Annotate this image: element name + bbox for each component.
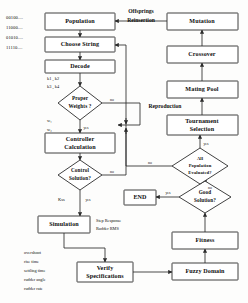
annotation-sim-output-1: Step Response (96, 218, 121, 223)
annotation-binary-string-2: 11000.... (6, 25, 23, 30)
node-fuzzy-domain-label: Fuzzy Domain (185, 268, 225, 274)
node-all-population-evaluated-label-1: All (197, 156, 204, 161)
edge-label-no-control-solution: no (110, 170, 114, 174)
node-control-solution-label-2: Solution? (69, 175, 91, 181)
node-all-population-evaluated-label-3: Evaluated? (188, 170, 212, 175)
node-good-solution-label-1: Good (199, 189, 212, 195)
node-verify-specifications-label-1: Verify (97, 265, 114, 271)
node-population-label: Population (65, 18, 95, 24)
annotation-spec-1: overshoot (24, 250, 42, 255)
node-all-population-evaluated-label-2: Population (189, 163, 212, 168)
edge-label-no-good-solution: no (208, 186, 212, 190)
node-control-solution-label-1: Control (71, 167, 89, 173)
node-fuzzy-domain[interactable]: Fuzzy Domain (172, 263, 238, 280)
node-decode-label: Decode (70, 63, 90, 69)
node-choose-string[interactable]: Choose String (45, 37, 115, 52)
annotation-decode-output-2: k3 , k4 (47, 84, 60, 90)
annotation-sim-output-2: Rudder RMS (96, 226, 119, 231)
edge-label-reinsertion: Reinsertion (127, 17, 156, 23)
node-simulation-label: Simulation (49, 221, 79, 227)
node-proper-weights-label-1: Proper (72, 95, 89, 101)
node-control-solution[interactable]: Control Solution? (58, 160, 102, 190)
node-fitness-label: Fitness (195, 237, 215, 243)
edge-trunk-to-choose-string (115, 45, 126, 125)
node-all-population-evaluated[interactable]: All Population Evaluated? (172, 148, 228, 184)
annotation-weight-output-2: w₂ (47, 127, 52, 132)
annotation-decode-output-1: k1 , k2 (47, 76, 59, 82)
node-mutation[interactable]: Mutation (167, 13, 238, 30)
node-mating-pool-label: Mating Pool (185, 86, 218, 92)
node-tournament-selection-label-1: Tournament (185, 118, 218, 124)
node-crossover[interactable]: Crossover (167, 46, 238, 63)
node-end-label: END (133, 194, 147, 200)
edge-label-yes-all-population: yes (203, 142, 209, 146)
node-tournament-selection-label-2: Selection (190, 126, 215, 132)
edge-label-offsprings: Offsprings (128, 8, 154, 14)
node-controller-calculation-label-2: Calculation (64, 144, 96, 150)
node-end[interactable]: END (124, 190, 156, 205)
node-mutation-label: Mutation (189, 18, 215, 24)
edge-proper-weights-no-trunk (102, 103, 140, 125)
node-verify-specifications[interactable]: Verify Specifications (77, 262, 133, 282)
node-controller-calculation[interactable]: Controller Calculation (45, 133, 115, 153)
node-fitness[interactable]: Fitness (172, 232, 238, 249)
node-tournament-selection[interactable]: Tournament Selection (167, 115, 238, 135)
annotation-binary-string-4: 11110.... (6, 45, 22, 50)
annotation-spec-5: rudder rate (24, 286, 43, 291)
node-population[interactable]: Population (45, 13, 115, 30)
annotation-weight-output-1: w₁ (47, 118, 52, 123)
node-proper-weights-label-2: Weights ? (69, 103, 92, 109)
node-choose-string-label: Choose String (61, 41, 99, 47)
edge-label-yes-control-solution: yes (85, 198, 91, 202)
annotation-control-gains: Kss (58, 197, 65, 202)
annotation-spec-2: rise time (24, 259, 39, 264)
flowchart-diagram: Population Choose String Decode Proper W… (0, 0, 248, 303)
annotation-spec-3: settling time (24, 268, 45, 273)
edge-label-no-proper-weights: no (110, 98, 114, 102)
annotation-spec-4: rudder angle (24, 277, 46, 282)
edge-label-reproduction: Reproduction (149, 103, 183, 109)
node-good-solution-label-2: Solution? (194, 197, 216, 203)
annotation-binary-string-1: 00100.... (6, 15, 23, 20)
edge-simulation-to-verify (64, 233, 105, 262)
annotation-binary-string-3: 01010.... (6, 35, 23, 40)
node-simulation[interactable]: Simulation (38, 216, 90, 233)
node-verify-specifications-label-2: Specifications (86, 273, 124, 279)
edge-label-no-all-population: no (148, 161, 152, 165)
edge-label-yes-good-solution: yes (165, 191, 171, 195)
node-mating-pool[interactable]: Mating Pool (167, 81, 238, 98)
node-proper-weights[interactable]: Proper Weights ? (58, 86, 102, 120)
node-crossover-label: Crossover (188, 51, 216, 57)
nodes: Population Choose String Decode Proper W… (38, 13, 238, 282)
node-good-solution[interactable]: Good Solution? (179, 181, 231, 213)
node-decode[interactable]: Decode (45, 60, 115, 73)
edge-label-yes-proper-weights: yes (83, 126, 89, 130)
node-controller-calculation-label-1: Controller (66, 136, 95, 142)
